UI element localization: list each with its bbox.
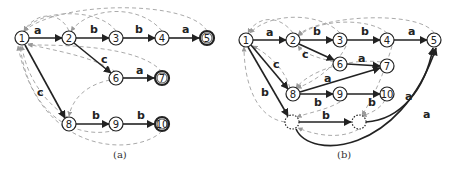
state-label: 10 — [381, 89, 394, 100]
svg-text:a: a — [34, 24, 41, 37]
state-label: 5 — [204, 33, 210, 44]
svg-text:b: b — [137, 109, 145, 122]
svg-text:b: b — [261, 86, 269, 99]
svg-text:b: b — [90, 23, 98, 36]
state-node-7: 7 — [380, 59, 394, 73]
svg-text:a: a — [266, 26, 273, 39]
svg-text:c: c — [101, 53, 108, 66]
svg-text:a: a — [358, 52, 365, 65]
state-node-8: 8 — [286, 87, 300, 101]
svg-text:b: b — [135, 23, 143, 36]
svg-text:b: b — [322, 109, 330, 122]
svg-text:a: a — [423, 108, 430, 121]
state-node-9: 9 — [109, 117, 123, 131]
svg-text:a: a — [405, 90, 412, 103]
state-node-5: 5 — [200, 31, 214, 45]
state-label: 9 — [113, 119, 119, 130]
automaton-diagram: a b b a c a c b b 12345678910 (a) — [0, 0, 455, 173]
state-label: 6 — [113, 73, 119, 84]
panel-a-caption: (a) — [113, 149, 127, 160]
state-label: 2 — [66, 33, 72, 44]
state-label: 4 — [384, 35, 390, 46]
state-label: 4 — [159, 33, 165, 44]
state-node-3: 3 — [109, 31, 123, 45]
state-label: 9 — [337, 89, 343, 100]
svg-text:a: a — [324, 72, 331, 85]
state-node-3: 3 — [333, 33, 347, 47]
state-label: 1 — [19, 33, 25, 44]
state-label: 2 — [290, 35, 296, 46]
state-node-unlabeled — [352, 115, 366, 129]
svg-text:b: b — [92, 109, 100, 122]
state-label: 3 — [113, 33, 119, 44]
svg-text:a: a — [182, 23, 189, 36]
state-node-unlabeled — [285, 115, 299, 129]
state-label: 8 — [66, 119, 72, 130]
state-label: 10 — [156, 119, 169, 130]
state-label: 8 — [290, 89, 296, 100]
state-label: 1 — [243, 35, 249, 46]
panel-b-caption: (b) — [337, 149, 351, 160]
panel-b-states: 12345678910 — [239, 33, 441, 129]
state-node-2: 2 — [62, 31, 76, 45]
state-node-10: 10 — [380, 87, 394, 101]
svg-text:b: b — [368, 96, 376, 109]
state-label: 7 — [384, 61, 390, 72]
svg-text:c: c — [37, 86, 44, 99]
state-node-4: 4 — [155, 31, 169, 45]
state-node-10: 10 — [155, 117, 169, 131]
state-node-7: 7 — [155, 71, 169, 85]
state-node-2: 2 — [286, 33, 300, 47]
state-label: 5 — [431, 35, 437, 46]
state-node-6: 6 — [109, 71, 123, 85]
svg-text:c: c — [273, 58, 280, 71]
state-label: 6 — [337, 59, 343, 70]
svg-text:b: b — [313, 25, 321, 38]
svg-text:a: a — [136, 64, 143, 77]
state-node-8: 8 — [62, 117, 76, 131]
svg-text:c: c — [302, 48, 309, 61]
state-node-1: 1 — [15, 31, 29, 45]
svg-text:a: a — [408, 25, 415, 38]
state-node-6: 6 — [333, 57, 347, 71]
svg-text:b: b — [314, 96, 322, 109]
state-node-4: 4 — [380, 33, 394, 47]
state-node-5: 5 — [427, 33, 441, 47]
state-node-1: 1 — [239, 33, 253, 47]
state-node-9: 9 — [333, 87, 347, 101]
state-label: 7 — [159, 73, 165, 84]
state-label: 3 — [337, 35, 343, 46]
svg-text:b: b — [361, 25, 369, 38]
